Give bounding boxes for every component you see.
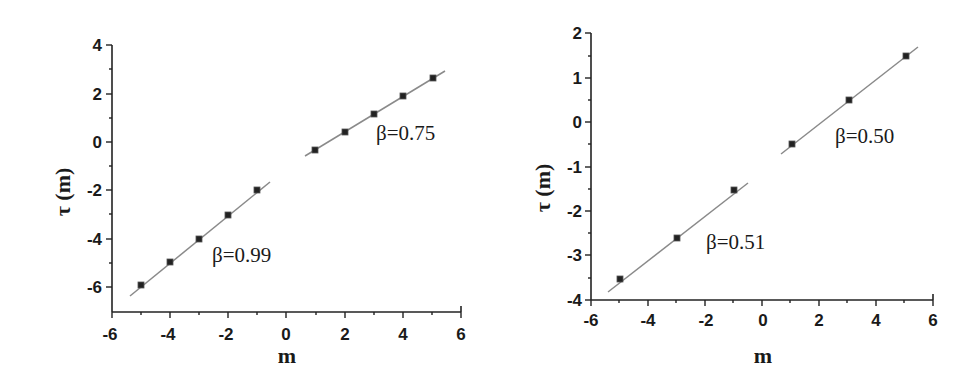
left-y-ticks: [106, 45, 112, 287]
left-x-ticks: [112, 312, 461, 318]
left-x-tick-label: 6: [456, 325, 465, 344]
data-point: [731, 187, 737, 193]
left-x-tick-label: -6: [102, 325, 117, 344]
data-point: [430, 75, 436, 81]
right-y-tick-label: -2: [567, 202, 582, 221]
data-point: [617, 276, 623, 282]
right-y-tick-label: 0: [573, 113, 582, 132]
right-chart: 2 1 0 -1 -2 -3 -4 -6 -4 -2 0 2 4 6 m τ (…: [530, 24, 938, 368]
data-point: [903, 53, 909, 59]
left-y-tick-label: -6: [87, 278, 102, 297]
left-chart: 4 2 0 -2 -4 -6 -6 -4 -2 0 2 4 6 m τ (m): [50, 36, 466, 368]
left-y-tick-label: 2: [93, 85, 102, 104]
left-y-tick-label: -2: [87, 181, 102, 200]
right-x-tick-label: -2: [698, 311, 713, 330]
left-annotation-beta-positive: β=0.75: [376, 121, 435, 145]
right-y-tick-label: -3: [567, 246, 582, 265]
right-x-tick-label: 0: [758, 311, 767, 330]
right-y-tick-label: 2: [573, 24, 582, 43]
right-x-tick-label: 2: [814, 311, 823, 330]
left-y-axis-title: τ (m): [50, 168, 75, 217]
left-x-tick-label: -4: [160, 325, 176, 344]
right-x-axis-title: m: [754, 343, 772, 368]
right-y-axis-title: τ (m): [530, 164, 555, 213]
left-y-tick-label: 0: [93, 133, 102, 152]
left-x-tick-label: 2: [340, 325, 349, 344]
right-annotation-beta-positive: β=0.50: [835, 124, 894, 148]
right-x-tick-label: 6: [928, 311, 937, 330]
left-x-tick-label: 0: [281, 325, 290, 344]
left-series-negative: [138, 187, 260, 288]
data-point: [196, 236, 202, 242]
right-x-ticks: [591, 300, 933, 306]
data-point: [846, 97, 852, 103]
figure: 4 2 0 -2 -4 -6 -6 -4 -2 0 2 4 6 m τ (m): [0, 0, 980, 388]
left-x-tick-label: -2: [218, 325, 233, 344]
right-y-ticks: [585, 33, 591, 300]
right-y-tick-label: 1: [573, 69, 582, 88]
data-point: [225, 212, 231, 218]
right-x-tick-label: 4: [871, 311, 881, 330]
data-point: [674, 235, 680, 241]
data-point: [167, 259, 173, 265]
data-point: [400, 93, 406, 99]
data-point: [789, 141, 795, 147]
right-x-tick-label: -4: [640, 311, 656, 330]
left-x-axis-title: m: [278, 343, 296, 368]
right-y-tick-label: -1: [567, 158, 582, 177]
left-annotation-beta-negative: β=0.99: [212, 243, 271, 267]
right-y-tick-label: -4: [567, 291, 583, 310]
left-y-tick-label: -4: [87, 230, 103, 249]
data-point: [312, 147, 318, 153]
data-point: [254, 187, 260, 193]
left-x-tick-label: 4: [398, 325, 408, 344]
data-point: [138, 282, 144, 288]
right-annotation-beta-negative: β=0.51: [706, 230, 765, 254]
data-point: [342, 129, 348, 135]
data-point: [371, 111, 377, 117]
right-x-tick-label: -6: [583, 311, 598, 330]
left-y-tick-label: 4: [93, 36, 103, 55]
